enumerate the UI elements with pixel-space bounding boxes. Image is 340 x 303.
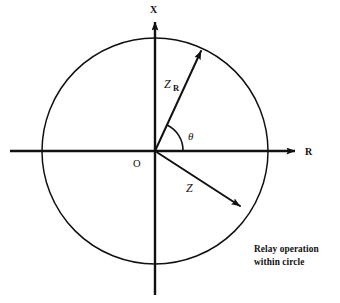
zr-vector-label: Z R [164,77,180,93]
zr-label-base: Z [164,77,171,91]
theta-arc [167,125,183,151]
origin-label: O [133,158,141,169]
theta-label: θ [188,130,194,142]
reactance-axis-label: X [150,4,158,15]
impedance-diagram: X R O Z R Z θ Relay operation within cir… [0,0,340,303]
zr-label-subscript: R [173,83,180,93]
resistance-axis-label: R [305,146,313,157]
z-vector-line [155,151,240,206]
zr-vector-line [155,51,201,151]
z-vector-label: Z [186,181,193,195]
caption: Relay operation within circle [254,243,340,268]
caption-line-2: within circle [254,256,340,269]
caption-line-1: Relay operation [254,243,340,256]
